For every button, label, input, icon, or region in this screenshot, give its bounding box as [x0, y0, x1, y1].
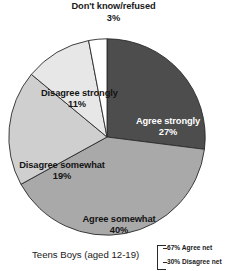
- slice-label-agree-somewhat: Agree somewhat 40%: [60, 214, 178, 237]
- net-annotations: 67% Agree net 30% Disagree net: [157, 242, 227, 271]
- slice-label-agree-somewhat-text: Agree somewhat: [83, 214, 156, 224]
- slice-label-disagree-strongly-value: 11%: [41, 99, 113, 110]
- slice-label-agree-strongly: Agree strongly 27%: [116, 116, 220, 139]
- footer-caption: Teens Boys (aged 12-19): [32, 249, 139, 260]
- slice-label-agree-strongly-value: 27%: [116, 127, 220, 138]
- slice-label-agree-somewhat-value: 40%: [60, 225, 178, 236]
- net-disagree-label: 30% Disagree net: [167, 258, 222, 265]
- pie-chart-figure: Don't know/refused 3% Agree strongly 27%…: [0, 0, 227, 271]
- slice-label-disagree-somewhat-value: 19%: [6, 171, 118, 182]
- pie-graphic: Agree strongly 27% Agree somewhat 40% Di…: [8, 38, 206, 236]
- net-agree-label: 67% Agree net: [167, 244, 212, 251]
- chart-footer: Teens Boys (aged 12-19) 67% Agree net 30…: [0, 241, 227, 271]
- callout-value: 3%: [0, 13, 227, 24]
- slice-label-disagree-somewhat: Disagree somewhat 19%: [6, 160, 118, 183]
- slice-label-disagree-somewhat-text: Disagree somewhat: [19, 160, 105, 170]
- callout-dont-know-refused: Don't know/refused 3%: [0, 1, 227, 24]
- slice-label-disagree-strongly: Disagree strongly 11%: [41, 88, 113, 111]
- slice-label-agree-strongly-text: Agree strongly: [136, 116, 200, 126]
- callout-label: Don't know/refused: [0, 1, 227, 12]
- slice-label-disagree-strongly-text: Disagree strongly: [41, 88, 118, 98]
